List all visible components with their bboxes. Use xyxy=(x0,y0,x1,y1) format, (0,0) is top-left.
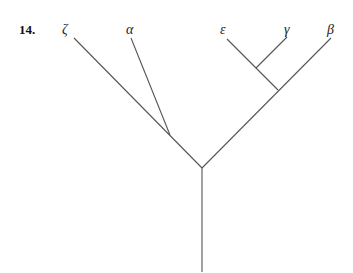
branch-zeta xyxy=(74,38,202,168)
branch-alpha xyxy=(131,38,170,135)
branch-gamma xyxy=(256,37,287,68)
tree-branches xyxy=(0,0,353,273)
branch-epsilon xyxy=(227,39,278,90)
tree-figure: 14. ζ α ε γ β xyxy=(0,0,353,273)
